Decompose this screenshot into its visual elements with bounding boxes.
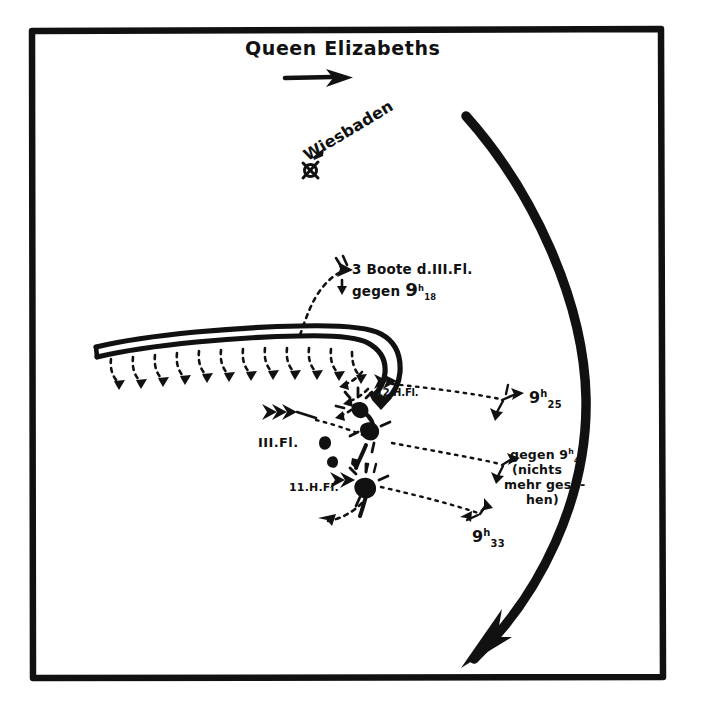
time-933-min: 33 [491,538,505,549]
note-line-3: mehr gese- [504,478,585,492]
note-line-2: (nichts [512,463,562,477]
time-925-hour: 9 [529,388,540,407]
label-time-925: 9h25 [529,389,562,410]
gegen-940-hour: 9 [559,447,568,462]
time-933-h: h [483,527,490,538]
gegen-940-word: gegen [510,447,555,462]
boote-time-hour: 9 [405,279,418,300]
boote-time-word: gegen [352,283,400,299]
time-925-min: 25 [548,399,562,410]
label-flotilla-11: 11.H.Fl. [289,482,339,494]
boote-time-min: 18 [424,292,436,302]
label-boote-time: gegen 9h18 [352,280,436,302]
page-title: Queen Elizabeths [245,38,440,59]
label-flotilla-12: 12.H.Fl. [376,388,418,399]
battle-sketch-map: .ink{fill:none;stroke:#111;stroke-lineca… [0,0,701,714]
label-flotilla-3: III.Fl. [258,436,299,450]
gegen-940-h: h [568,447,574,456]
time-925-h: h [540,388,547,399]
note-line-4: hen) [526,493,559,507]
time-933-hour: 9 [472,527,483,546]
label-3-boote: 3 Boote d.III.Fl. [352,262,473,277]
gegen-940-min: 40 [574,456,585,465]
label-time-933: 9h33 [472,528,505,549]
